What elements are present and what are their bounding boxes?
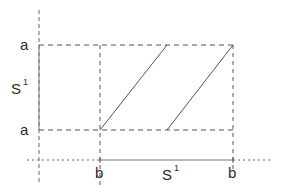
torus-flow-diagram: a a S 1 b b S 1 [0,0,283,193]
label-b-right: b [228,164,236,181]
label-a-bottom: a [20,121,29,138]
label-a-top: a [20,36,29,53]
flow-line-2 [167,45,233,130]
label-s-horizontal: S [162,166,172,183]
label-s-vertical: S [11,80,21,97]
label-s-horizontal-superscript: 1 [174,163,179,173]
label-b-left: b [95,164,103,181]
label-s-vertical-superscript: 1 [23,77,28,87]
flow-line-1 [100,45,167,130]
